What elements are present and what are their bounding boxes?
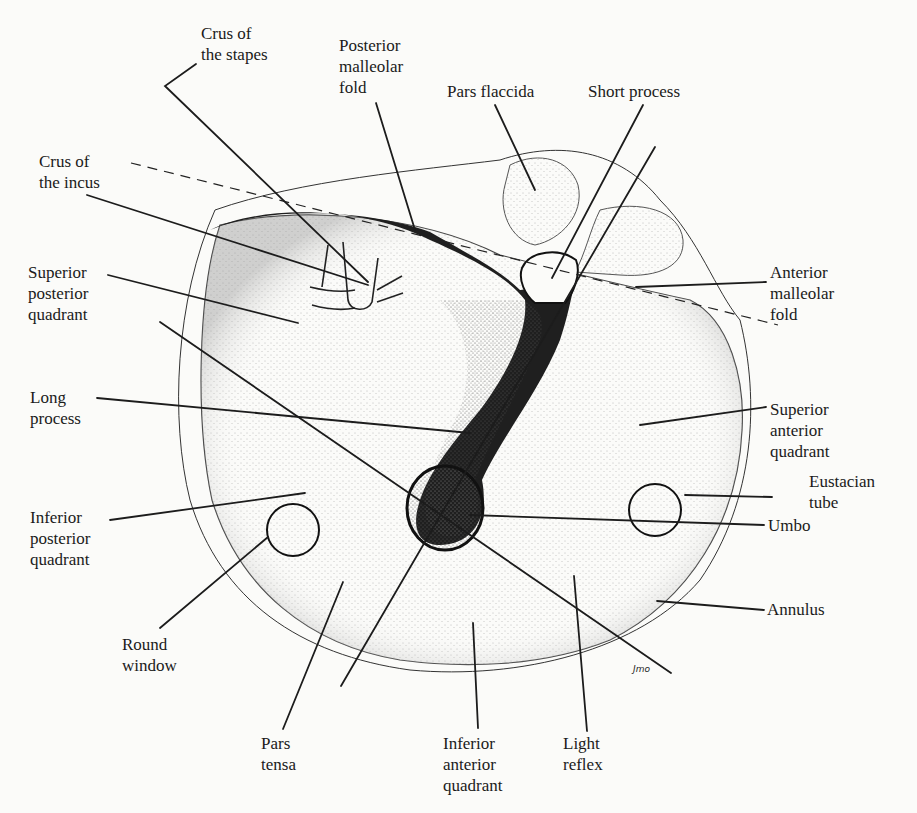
tympanic-membrane-diagram: Jmo Crus of the stapes Posterior malleol… bbox=[0, 0, 917, 813]
label-inferior-posterior-quadrant: Inferior posterior quadrant bbox=[30, 508, 95, 569]
label-superior-posterior-quadrant: Superior posterior quadrant bbox=[28, 263, 93, 324]
label-round-window: Round window bbox=[122, 635, 178, 675]
label-pars-flaccida: Pars flaccida bbox=[447, 82, 535, 101]
label-eustacian-tube: Eustacian tube bbox=[809, 472, 879, 512]
label-inferior-anterior-quadrant: Inferior anterior quadrant bbox=[443, 734, 503, 795]
label-superior-anterior-quadrant: Superior anterior quadrant bbox=[770, 400, 833, 461]
leader-anterior-malleolar-fold bbox=[636, 282, 766, 287]
artist-signature: Jmo bbox=[631, 664, 650, 674]
leader-posterior-malleolar-fold bbox=[376, 103, 415, 230]
leader-round-window bbox=[160, 537, 268, 628]
label-pars-tensa: Pars tensa bbox=[261, 734, 296, 774]
label-umbo: Umbo bbox=[768, 516, 811, 535]
label-crus-stapes: Crus of the stapes bbox=[201, 24, 268, 64]
label-long-process: Long process bbox=[30, 388, 81, 428]
anterior-pouch bbox=[575, 206, 683, 275]
label-short-process: Short process bbox=[588, 82, 680, 101]
label-crus-incus: Crus of the incus bbox=[39, 152, 100, 192]
label-posterior-malleolar-fold: Posterior malleolar fold bbox=[339, 36, 407, 97]
label-annulus: Annulus bbox=[767, 600, 825, 619]
label-light-reflex: Light reflex bbox=[563, 734, 604, 774]
label-anterior-malleolar-fold: Anterior malleolar fold bbox=[770, 263, 838, 324]
pars-flaccida-region bbox=[503, 158, 579, 245]
